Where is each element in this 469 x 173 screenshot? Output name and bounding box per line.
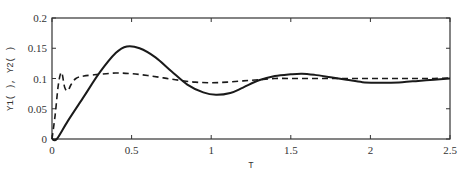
series-y1	[52, 46, 450, 140]
x-tick-label: 2	[368, 144, 374, 156]
y-tick-label: 0	[42, 133, 48, 145]
y-tick-label: 0.05	[28, 103, 48, 115]
y-tick-label: 0.1	[33, 73, 47, 85]
line-chart: 00.511.522.5 00.050.10.150.2 T Y1( ), Y2…	[0, 0, 469, 173]
y-tick-label: 0.15	[28, 42, 48, 54]
x-tick-label: 0	[49, 144, 55, 156]
plot-frame	[52, 18, 450, 139]
x-tick-label: 1	[208, 144, 214, 156]
series-group	[52, 46, 450, 140]
y-tick-label: 0.2	[33, 12, 47, 24]
x-tick-label: 0.5	[125, 144, 139, 156]
x-tick-label: 1.5	[284, 144, 298, 156]
x-axis-label: T	[248, 161, 254, 171]
x-tick-label: 2.5	[443, 144, 457, 156]
y-axis-label: Y1( ), Y2( )	[6, 46, 16, 111]
x-axis-ticks: 00.511.522.5	[49, 18, 457, 156]
